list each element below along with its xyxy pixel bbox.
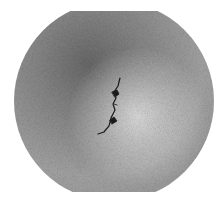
specimen-image bbox=[0, 0, 224, 200]
disc-specimen bbox=[0, 0, 224, 200]
